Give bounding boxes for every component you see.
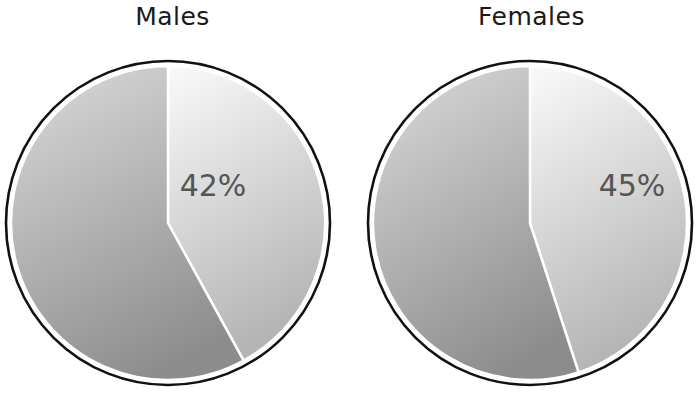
females-percentage-label: 45% — [599, 168, 666, 203]
females-pie: 45% — [368, 61, 692, 385]
males-percentage-label: 42% — [180, 168, 247, 203]
males-pie: 42% — [6, 61, 330, 385]
